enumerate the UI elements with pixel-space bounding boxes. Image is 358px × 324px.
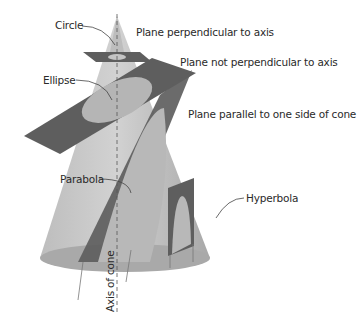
label-ellipse: Ellipse: [43, 74, 76, 86]
label-hyperbola: Hyperbola: [246, 192, 298, 204]
label-axis: Axis of cone: [104, 251, 116, 313]
label-plane-perpendicular: Plane perpendicular to axis: [136, 26, 274, 38]
label-parabola: Parabola: [60, 173, 104, 185]
label-plane-not-perpendicular: Plane not perpendicular to axis: [180, 56, 338, 68]
plane-hyperbola: [168, 178, 194, 256]
plane-perpendicular: [83, 16, 152, 62]
conic-sections-diagram: [0, 0, 358, 324]
label-plane-parallel: Plane parallel to one side of cone: [188, 108, 356, 120]
label-circle: Circle: [55, 19, 83, 31]
